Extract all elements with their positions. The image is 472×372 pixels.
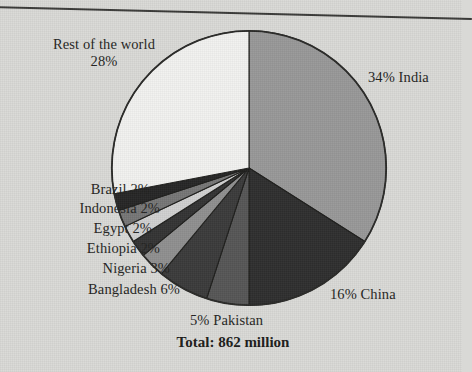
slice-label-pakistan: 5% Pakistan [190,312,263,329]
slice-label-egypt: Egypt 2% [10,220,152,237]
slice-label-brazil: Brazil 2% [10,181,150,198]
slice-label-rest-of-the-world-line1: Rest of the world [28,36,180,53]
slice-label-china: 16% China [330,286,396,303]
slice-label-rest-of-the-world-line2: 28% [28,53,180,70]
slice-label-nigeria: Nigeria 3% [10,260,170,277]
slice-label-ethiopia: Ethiopia 2% [10,240,160,257]
slice-label-india: 34% India [368,69,429,86]
page-rule-line [0,6,472,20]
slice-label-indonesia: Indonesia 2% [10,200,160,217]
slice-label-rest-of-the-world: Rest of the world 28% [28,36,180,70]
total-caption: Total: 862 million [123,334,343,351]
slice-label-bangladesh: Bangladesh 6% [10,281,180,298]
